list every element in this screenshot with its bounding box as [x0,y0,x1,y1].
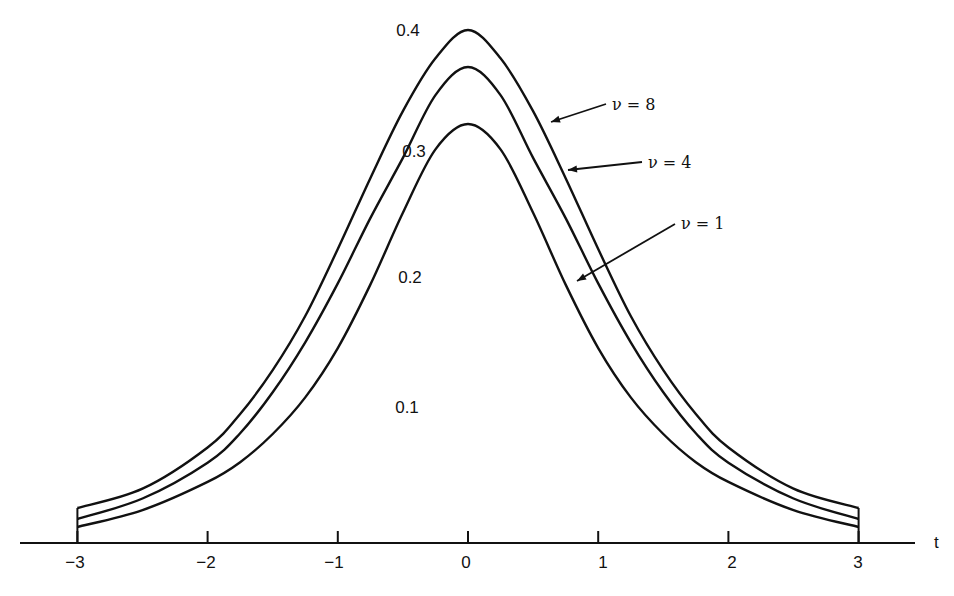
legend-nu-8: ν = 8 [612,95,655,114]
curve-4 [77,67,858,519]
x-tick-label-3: 3 [853,553,862,573]
curve-1 [77,124,858,527]
x-axis-ticks [77,531,858,543]
t-distribution-chart [0,0,954,596]
density-curves [77,30,858,543]
x-tick-label-neg3: −3 [65,553,84,573]
y-label-0.3: 0.3 [402,142,426,162]
legend-nu-4: ν = 4 [648,153,691,172]
x-tick-label-0: 0 [461,553,470,573]
legend-nu-1: ν = 1 [681,214,724,233]
curve-8 [77,30,858,508]
y-label-0.1: 0.1 [395,398,419,418]
y-label-0.4: 0.4 [396,21,420,41]
arrow-head-icon [577,273,587,281]
x-tick-label-neg2: −2 [196,553,215,573]
x-tick-label-neg1: −1 [324,553,343,573]
x-tick-label-1: 1 [598,553,607,573]
y-label-0.2: 0.2 [398,268,422,288]
annotation-arrow [568,162,642,170]
arrow-head-icon [551,116,561,123]
annotation-arrows [551,104,675,281]
x-tick-label-2: 2 [727,553,736,573]
x-axis-title: t [934,533,939,553]
